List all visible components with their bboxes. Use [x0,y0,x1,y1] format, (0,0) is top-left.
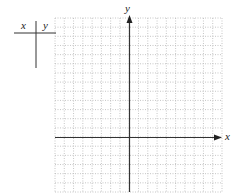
table-header-y: y [43,20,48,31]
x-axis-arrow-icon [214,135,222,141]
diagram-canvas [0,0,242,196]
y-axis-arrow-icon [127,15,133,23]
y-axis-label: y [125,3,130,14]
table-header-x: x [21,20,26,31]
x-axis-label: x [225,131,230,142]
coordinate-grid [55,18,222,192]
